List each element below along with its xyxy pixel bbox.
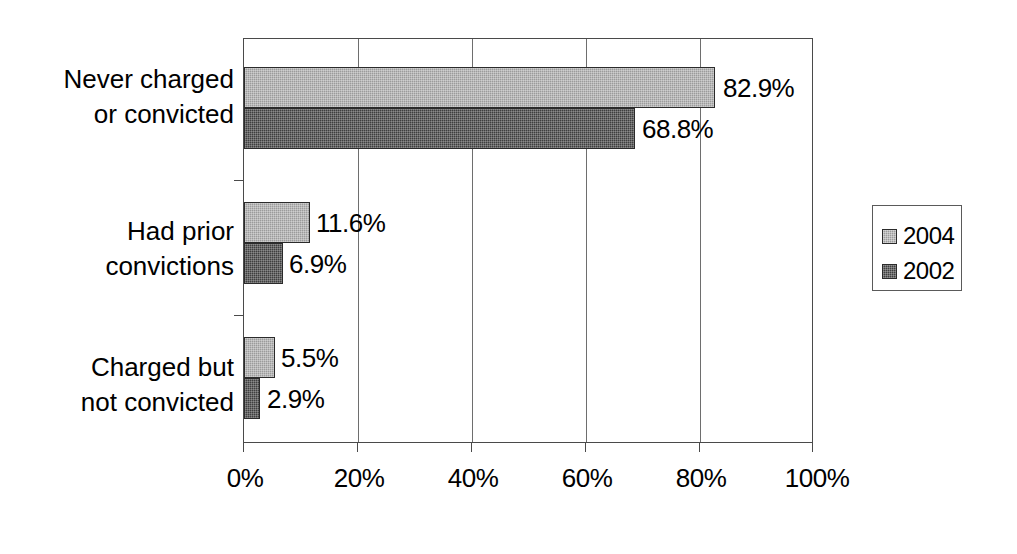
datalabel-2004-had-prior-convictions: 11.6%: [316, 208, 385, 238]
xticklabel-80: 80%: [676, 462, 727, 494]
ytick-category-1: [234, 180, 243, 181]
bar-2004-charged-not-convicted: [244, 337, 275, 378]
legend-item-2004[interactable]: 2004: [882, 223, 954, 249]
datalabel-2004-charged-not-convicted: 5.5%: [281, 343, 338, 373]
xtick-100: [812, 443, 813, 452]
bar-2002-never-charged: [244, 108, 635, 149]
xtick-40: [471, 443, 472, 452]
category-label-never-charged-or-convicted: Never charged or convicted: [0, 62, 234, 132]
category-label-line: Charged but: [0, 350, 234, 385]
legend-item-2002[interactable]: 2002: [882, 258, 954, 284]
bar-2004-never-charged: [244, 67, 715, 108]
legend-label-2002: 2002: [903, 258, 954, 284]
datalabel-2004-never-charged: 82.9%: [723, 73, 794, 103]
legend-swatch-icon-2004: [882, 229, 897, 244]
datalabel-2002-charged-not-convicted: 2.9%: [267, 384, 324, 414]
legend: 2004 2002: [872, 205, 962, 291]
category-label-line: Had prior: [0, 214, 234, 249]
datalabel-2002-never-charged: 68.8%: [642, 114, 713, 144]
category-label-charged-but-not-convicted: Charged but not convicted: [0, 350, 234, 420]
bar-2004-had-prior-convictions: [244, 202, 310, 243]
xticklabel-100: 100%: [785, 462, 850, 494]
xticklabel-0: 0%: [227, 462, 264, 494]
legend-swatch-icon-2002: [882, 264, 897, 279]
x-axis-tick-labels: 0% 20% 40% 60% 80% 100%: [0, 462, 1017, 502]
category-label-line: Never charged: [0, 62, 234, 97]
bar-2002-charged-not-convicted: [244, 378, 260, 419]
xticklabel-60: 60%: [562, 462, 613, 494]
xtick-0: [243, 443, 244, 452]
xtick-80: [699, 443, 700, 452]
xticklabel-20: 20%: [334, 462, 385, 494]
xtick-20: [357, 443, 358, 452]
datalabel-2002-had-prior-convictions: 6.9%: [289, 249, 346, 279]
xtick-60: [585, 443, 586, 452]
category-label-line: convictions: [0, 249, 234, 284]
xticklabel-40: 40%: [448, 462, 499, 494]
bar-chart: 0% 20% 40% 60% 80% 100% Never charged or…: [0, 0, 1017, 554]
legend-label-2004: 2004: [903, 223, 954, 249]
category-label-line: or convicted: [0, 97, 234, 132]
category-label-line: not convicted: [0, 385, 234, 420]
ytick-category-2: [234, 315, 243, 316]
bar-2002-had-prior-convictions: [244, 243, 283, 284]
category-label-had-prior-convictions: Had prior convictions: [0, 214, 234, 284]
